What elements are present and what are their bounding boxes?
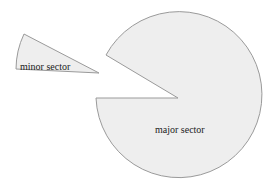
sector-diagram: minor sector major sector [0,0,274,194]
major-sector [96,12,262,178]
minor-sector-label: minor sector [20,61,71,72]
major-sector-label: major sector [155,124,205,135]
